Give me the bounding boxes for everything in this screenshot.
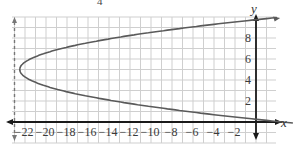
x-tick-label: −6 — [186, 125, 199, 139]
y-tick-label: 8 — [245, 31, 251, 45]
x-tick-label: −2 — [228, 125, 241, 139]
y-tick-label: 6 — [245, 52, 251, 66]
x-tick-label: −4 — [207, 125, 220, 139]
x-tick-label: −20 — [36, 125, 55, 139]
y-tick-label: 2 — [245, 94, 251, 108]
y-tick-label: 4 — [245, 73, 251, 87]
y-axis-label: y — [249, 1, 257, 16]
x-tick-label: −16 — [78, 125, 97, 139]
x-tick-label: −10 — [141, 125, 160, 139]
x-tick-label: −12 — [120, 125, 139, 139]
x-tick-label: −14 — [99, 125, 118, 139]
x-axis-label: x — [280, 115, 287, 130]
x-tick-label: −22 — [15, 125, 34, 139]
parabola-chart: −22−20−18−16−14−12−10−8−6−4−2 2468 x y — [0, 0, 295, 151]
x-tick-label: −8 — [165, 125, 178, 139]
x-tick-labels: −22−20−18−16−14−12−10−8−6−4−2 — [15, 125, 241, 139]
x-tick-label: −18 — [57, 125, 76, 139]
